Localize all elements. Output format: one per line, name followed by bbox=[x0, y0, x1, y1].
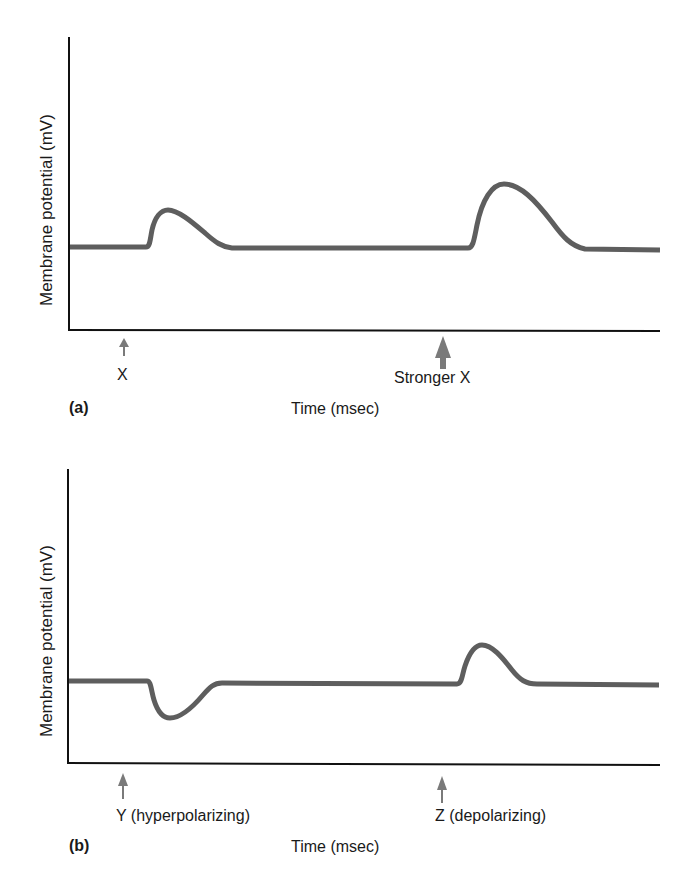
arrow-up-bold-icon bbox=[435, 336, 451, 369]
panel-a-y-axis-label: Membrane potential (mV) bbox=[37, 114, 57, 306]
stimulus-label-stronger-x: Stronger X bbox=[394, 369, 470, 387]
panel-b-axes bbox=[67, 469, 660, 765]
arrow-up-icon bbox=[119, 338, 129, 356]
panel-a-tag: (a) bbox=[69, 399, 89, 417]
stimulus-label-y: Y (hyperpolarizing) bbox=[116, 807, 250, 825]
stimulus-label-z: Z (depolarizing) bbox=[435, 807, 546, 825]
panel-a-x-axis-label: Time (msec) bbox=[291, 400, 379, 418]
panel-b-y-axis-label: Membrane potential (mV) bbox=[37, 545, 57, 737]
stimulus-label-x: X bbox=[117, 366, 128, 384]
panel-b-trace bbox=[69, 645, 659, 718]
figure-canvas bbox=[0, 0, 689, 887]
panel-a-trace bbox=[70, 184, 660, 250]
panel-b-tag: (b) bbox=[69, 837, 89, 855]
panel-b-x-axis-label: Time (msec) bbox=[291, 838, 379, 856]
panel-a-axes bbox=[68, 37, 660, 331]
arrow-up-icon bbox=[437, 776, 447, 803]
arrow-up-icon bbox=[118, 773, 128, 799]
